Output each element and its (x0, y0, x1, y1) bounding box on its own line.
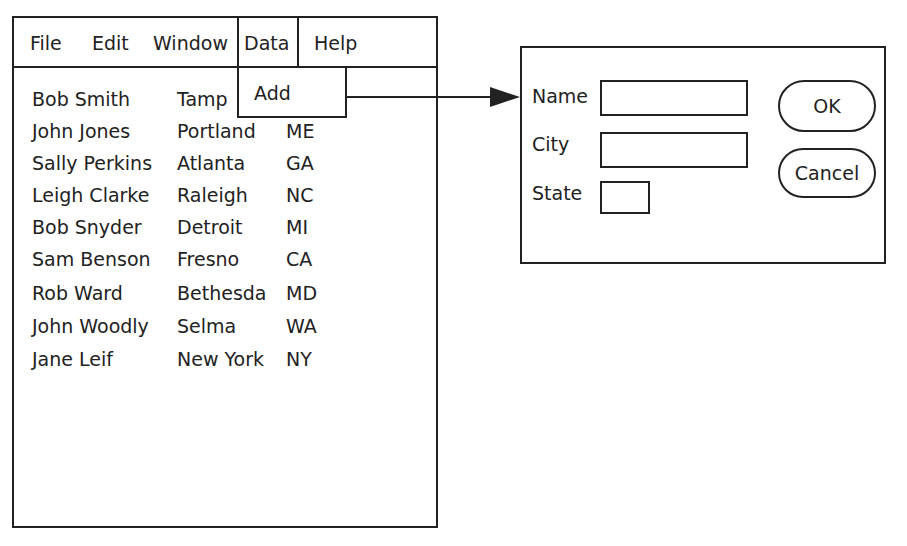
menu-file[interactable]: File (30, 32, 62, 54)
city-field[interactable] (600, 132, 748, 168)
menu-bar: File Edit Window Data Help (14, 18, 436, 68)
city-label: City (532, 133, 569, 155)
main-window: File Edit Window Data Help Bob SmithTamp… (12, 16, 438, 528)
menu-data[interactable]: Data (244, 32, 289, 54)
state-label: State (532, 182, 582, 204)
menu-edit[interactable]: Edit (92, 32, 129, 54)
name-label: Name (532, 85, 588, 107)
menu-help[interactable]: Help (314, 32, 357, 54)
ok-button[interactable]: OK (778, 80, 876, 132)
menu-window[interactable]: Window (153, 32, 228, 54)
add-record-dialog: Name City State OK Cancel (520, 46, 886, 264)
menu-item-add[interactable]: Add (254, 82, 291, 104)
cancel-button[interactable]: Cancel (778, 148, 876, 198)
state-field[interactable] (600, 181, 650, 214)
data-dropdown-menu: Add (237, 66, 347, 118)
name-field[interactable] (600, 80, 748, 116)
